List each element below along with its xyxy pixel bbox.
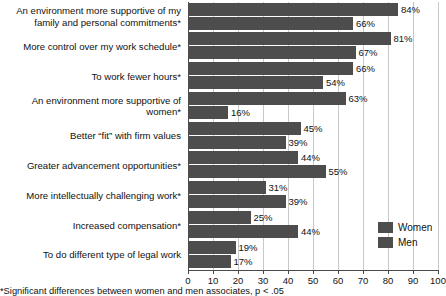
x-tick-mark [413,270,414,274]
bar-value-label: 44% [298,225,320,238]
bar-value-label: 39% [286,195,308,208]
bar-value-label: 67% [356,46,378,59]
bar-group: 45%39% [188,121,438,151]
bar-women [188,92,346,105]
category-label: Better “fit” with firm values [0,121,184,151]
bar-value-label: 84% [398,3,420,16]
bar-men [188,255,231,268]
bar-value-label: 54% [323,76,345,89]
x-tick-mark [238,270,239,274]
x-tick-label: 70 [358,275,369,286]
bar-women [188,3,398,16]
bar-value-label: 55% [326,165,348,178]
category-label: To do different type of legal work [0,240,184,270]
bar-men [188,195,286,208]
category-label: To work fewer hours* [0,62,184,92]
x-tick-mark [188,270,189,274]
bar-men [188,225,298,238]
category-label: An environment more supportive of my fam… [0,2,184,32]
x-tick-label: 50 [308,275,319,286]
legend-swatch-icon [378,222,393,233]
category-label: More control over my work schedule* [0,32,184,62]
bar-women [188,122,301,135]
legend-item-women: Women [378,222,432,233]
x-tick-mark [438,270,439,274]
category-label: An environment more supportive of women* [0,91,184,121]
x-tick-label: 30 [258,275,269,286]
x-tick-mark [263,270,264,274]
category-label: Greater advancement opportunities* [0,151,184,181]
bar-value-label: 25% [251,211,273,224]
x-tick-mark [338,270,339,274]
bar-group: 66%54% [188,62,438,92]
gridline [438,2,439,270]
legend-label: Women [398,222,432,233]
bar-value-label: 81% [391,32,413,45]
bar-group: 31%39% [188,181,438,211]
category-axis-labels: An environment more supportive of my fam… [0,2,184,270]
x-tick-label: 10 [208,275,219,286]
bar-women [188,62,353,75]
bar-value-label: 45% [301,122,323,135]
bar-value-label: 17% [231,255,253,268]
bar-men [188,106,228,119]
bar-men [188,46,356,59]
bar-group: 63%16% [188,91,438,121]
x-tick-mark [388,270,389,274]
legend: Women Men [378,222,432,252]
bar-men [188,17,353,30]
footnote: *Significant differences between women a… [0,286,284,296]
bar-women [188,181,266,194]
x-tick-label: 60 [333,275,344,286]
x-tick-label: 90 [408,275,419,286]
bar-group: 81%67% [188,32,438,62]
bar-value-label: 66% [353,17,375,30]
bar-women [188,151,298,164]
x-tick-mark [288,270,289,274]
bar-men [188,136,286,149]
bar-value-label: 39% [286,136,308,149]
bar-group: 44%55% [188,151,438,181]
x-tick-label: 40 [283,275,294,286]
bar-women [188,211,251,224]
bar-women [188,32,391,45]
category-label: Increased compensation* [0,210,184,240]
bar-men [188,76,323,89]
category-label: More intellectually challenging work* [0,181,184,211]
x-tick-label: 100 [430,275,446,286]
bar-value-label: 44% [298,151,320,164]
legend-label: Men [398,237,417,248]
x-tick-label: 80 [383,275,394,286]
bar-value-label: 63% [346,92,368,105]
x-tick-label: 20 [233,275,244,286]
bar-women [188,241,236,254]
x-tick-mark [363,270,364,274]
x-tick-mark [313,270,314,274]
legend-item-men: Men [378,237,432,248]
bar-value-label: 16% [228,106,250,119]
bar-value-label: 31% [266,181,288,194]
bar-value-label: 19% [236,241,258,254]
legend-swatch-icon [378,237,393,248]
x-tick-label: 0 [185,275,190,286]
bar-men [188,165,326,178]
bar-group: 84%66% [188,2,438,32]
bar-value-label: 66% [353,62,375,75]
x-tick-mark [213,270,214,274]
